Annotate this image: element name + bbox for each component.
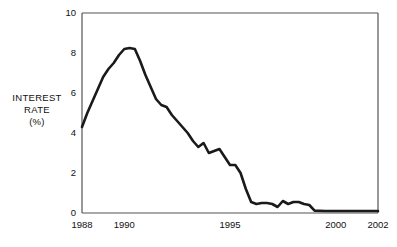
y-tick-label: 0 (56, 207, 76, 218)
x-tick-label: 2002 (358, 219, 397, 230)
y-tick-label: 2 (56, 167, 76, 178)
chart-figure: INTEREST RATE (%) 0246810198819901995200… (0, 0, 397, 247)
y-tick-label: 4 (56, 127, 76, 138)
y-axis-title-line-2: RATE (0, 104, 74, 116)
x-tick-label: 1990 (104, 219, 144, 230)
x-tick-label: 1988 (62, 219, 102, 230)
x-tick-label: 1995 (210, 219, 250, 230)
y-tick-label: 6 (56, 87, 76, 98)
y-tick-label: 10 (56, 7, 76, 18)
x-tick-label: 2000 (316, 219, 356, 230)
y-tick-label: 8 (56, 47, 76, 58)
